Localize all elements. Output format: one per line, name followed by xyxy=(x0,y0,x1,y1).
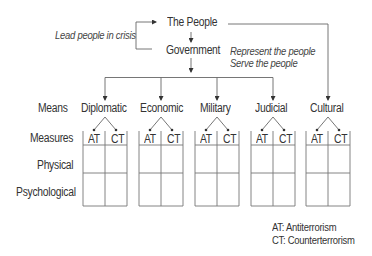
the-people-label: The People xyxy=(167,16,217,28)
col-header: CT xyxy=(223,133,236,145)
lead-bracket-arrow xyxy=(136,22,156,49)
col-header: AT xyxy=(256,133,268,145)
represent-note: Represent the people xyxy=(230,45,315,57)
col-header: CT xyxy=(279,133,292,145)
means-economic: Economic xyxy=(140,102,183,114)
col-header: AT xyxy=(88,133,100,145)
government-label: Government xyxy=(166,44,220,56)
col-header: AT xyxy=(311,133,323,145)
col-header: CT xyxy=(334,133,347,145)
lead-note: Lead people in crisis xyxy=(55,29,136,41)
col-header: CT xyxy=(167,133,180,145)
means-judicial: Judicial xyxy=(255,102,287,114)
means-military: Military xyxy=(200,102,231,114)
means-label: Means xyxy=(38,102,68,114)
means-cultural: Cultural xyxy=(310,102,343,114)
legend-at: AT: Antiterrorism xyxy=(272,221,336,233)
serve-note: Serve the people xyxy=(230,57,297,69)
col-header: AT xyxy=(144,133,156,145)
col-header: CT xyxy=(111,133,124,145)
branch-arrows xyxy=(94,117,339,130)
psychological-label: Psychological xyxy=(16,186,76,198)
measures-label: Measures xyxy=(30,132,73,144)
means-diplomatic: Diplomatic xyxy=(81,102,127,114)
col-header: AT xyxy=(200,133,212,145)
physical-label: Physical xyxy=(37,159,73,171)
legend-ct: CT: Counterterrorism xyxy=(272,234,355,246)
